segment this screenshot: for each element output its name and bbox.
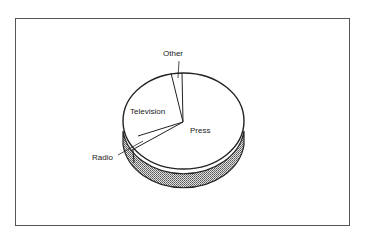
label-radio: Radio	[92, 153, 113, 162]
label-television: Television	[130, 107, 165, 116]
pie-top	[123, 73, 244, 169]
label-press: Press	[190, 126, 210, 135]
pie-chart	[0, 0, 366, 237]
label-other: Other	[163, 49, 183, 58]
